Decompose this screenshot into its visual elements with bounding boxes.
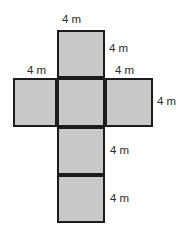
net-face-lower-upper bbox=[57, 127, 105, 175]
dimension-label-top: 4 m bbox=[62, 13, 81, 26]
net-face-lower-bottom bbox=[57, 175, 105, 223]
dimension-label-middle-left: 4 m bbox=[27, 64, 46, 77]
dimension-label-top-right: 4 m bbox=[109, 42, 128, 55]
dimension-label-bottom-right: 4 m bbox=[110, 192, 129, 205]
net-face-top bbox=[57, 30, 105, 78]
dimension-label-middle-right: 4 m bbox=[115, 64, 134, 77]
dimension-label-lower-right: 4 m bbox=[110, 144, 129, 157]
net-face-middle-right bbox=[105, 78, 153, 127]
cube-net-diagram: 4 m 4 m 4 m 4 m 4 m 4 m 4 m bbox=[0, 0, 191, 231]
dimension-label-far-right: 4 m bbox=[157, 95, 176, 108]
net-face-middle-center bbox=[57, 78, 105, 127]
net-face-middle-left bbox=[13, 78, 57, 127]
